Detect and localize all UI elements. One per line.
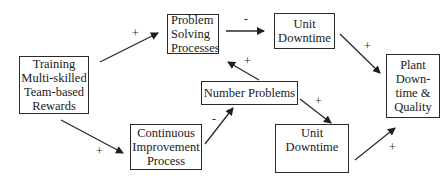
sign-unit-downtime-bottom-to-plant: + — [389, 141, 396, 153]
node-label: Problem — [171, 13, 213, 27]
node-label: Training — [33, 57, 76, 71]
arrow-training-to-continuous-improvement — [61, 120, 123, 153]
node-label: Plant — [400, 58, 426, 72]
node-unit-downtime-top: Unit Downtime — [274, 13, 335, 49]
node-label: Multi-skilled — [21, 71, 86, 85]
sign-training-to-problem-solving: + — [132, 27, 139, 39]
sign-unit-downtime-to-plant: + — [364, 40, 371, 52]
node-label: Unit — [293, 17, 315, 31]
node-label: Number Problems — [204, 86, 295, 100]
arrow-continuous-improvement-to-number-problems — [205, 108, 233, 144]
node-label: Downtime — [278, 31, 331, 45]
node-label: Team-based — [24, 85, 84, 99]
sign-number-problems-to-problem-solving: + — [244, 55, 251, 67]
node-label: Process — [147, 154, 185, 168]
sign-problem-solving-to-unit-downtime: - — [244, 13, 248, 25]
node-number-problems: Number Problems — [201, 81, 298, 105]
node-training: Training Multi-skilled Team-based Reward… — [19, 56, 89, 114]
node-label: Continuous — [137, 126, 195, 140]
node-label: Unit — [301, 126, 323, 140]
node-plant-downtime-quality: Plant Down- time & Quality — [386, 54, 440, 118]
node-label: Processes — [171, 41, 220, 55]
node-label: Quality — [394, 100, 432, 114]
node-problem-solving-processes: Problem Solving Processes — [167, 14, 219, 54]
node-label: Improvement — [132, 140, 199, 154]
arrow-training-to-problem-solving — [100, 33, 158, 62]
node-label: time & — [395, 86, 430, 100]
node-continuous-improvement-process: Continuous Improvement Process — [130, 124, 202, 170]
node-unit-downtime-bottom: Unit Downtime — [275, 124, 349, 173]
sign-number-problems-to-unit-downtime: + — [315, 95, 322, 107]
sign-training-to-continuous-improvement: + — [96, 145, 103, 157]
node-label: Solving — [171, 27, 210, 41]
node-label: Downtime — [286, 140, 339, 154]
arrow-unit-downtime-to-plant — [340, 34, 380, 73]
node-label: Down- — [396, 72, 431, 86]
node-label: Rewards — [32, 99, 76, 113]
sign-continuous-improvement-to-number-problems: - — [212, 113, 216, 125]
